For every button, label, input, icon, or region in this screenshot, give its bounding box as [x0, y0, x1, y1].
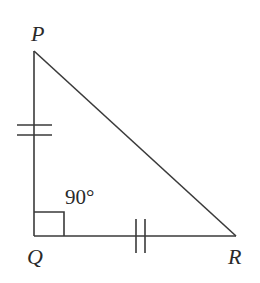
vertex-label-r: R — [227, 244, 242, 269]
angle-label: 90° — [65, 185, 94, 209]
vertex-label-p: P — [30, 21, 44, 46]
right-angle-marker — [34, 212, 64, 236]
vertex-label-q: Q — [27, 244, 43, 269]
triangle-diagram: P Q R 90° — [0, 0, 260, 283]
